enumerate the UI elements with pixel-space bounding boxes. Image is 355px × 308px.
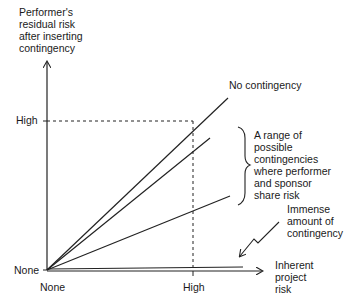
x-tick-none: None xyxy=(40,281,65,293)
range-brace xyxy=(238,127,250,205)
partial-contingency-lower-line xyxy=(47,196,230,270)
no-contingency-label: No contingency xyxy=(229,79,301,91)
x-tick-high: High xyxy=(183,281,205,293)
y-tick-high: High xyxy=(16,114,38,126)
no-contingency-line xyxy=(47,98,228,270)
immense-contingency-line xyxy=(47,267,243,269)
range-label: A range of possible contingencies where … xyxy=(254,129,331,201)
y-axis-label: Performer's residual risk after insertin… xyxy=(19,6,83,54)
immense-label: Immense amount of contingency xyxy=(287,203,343,239)
y-tick-none: None xyxy=(14,264,39,276)
x-axis-label: Inherent project risk xyxy=(275,259,314,295)
partial-contingency-upper-line xyxy=(47,138,210,270)
lightning-arrow xyxy=(240,222,279,256)
